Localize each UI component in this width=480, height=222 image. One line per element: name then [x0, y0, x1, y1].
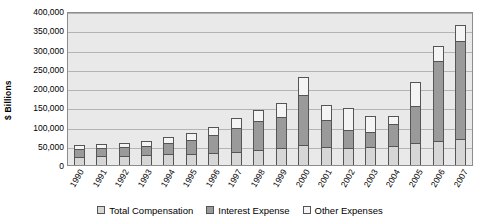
bar-segment-total-compensation[interactable] — [254, 151, 263, 165]
bar-segment-interest-expense[interactable] — [209, 136, 218, 154]
legend-item[interactable]: Other Expenses — [303, 205, 383, 216]
x-tick-slot: 2007 — [451, 167, 474, 201]
bar-segment-total-compensation[interactable] — [97, 157, 106, 165]
x-axis-tick: 1993 — [137, 168, 154, 189]
x-tick-slot: 1999 — [270, 167, 293, 201]
bar-slot — [158, 13, 180, 165]
bar-segment-other-expenses[interactable] — [232, 119, 241, 129]
bar-stack[interactable] — [455, 25, 466, 165]
bar-stack[interactable] — [208, 127, 219, 165]
bar-slot — [405, 13, 427, 165]
bar-segment-interest-expense[interactable] — [434, 62, 443, 142]
x-axis-tick: 2003 — [362, 168, 379, 189]
bar-stack[interactable] — [141, 141, 152, 165]
bar-segment-other-expenses[interactable] — [187, 134, 196, 141]
bar-stack[interactable] — [253, 110, 264, 165]
bar-slot — [449, 13, 471, 165]
bar-segment-total-compensation[interactable] — [434, 142, 443, 165]
x-tick-slot: 2001 — [315, 167, 338, 201]
bar-segment-total-compensation[interactable] — [411, 144, 420, 165]
x-axis-tick: 2006 — [430, 168, 447, 189]
bar-stack[interactable] — [163, 137, 174, 165]
bar-segment-interest-expense[interactable] — [232, 129, 241, 152]
bar-segment-interest-expense[interactable] — [142, 147, 151, 157]
x-axis-tick: 2001 — [317, 168, 334, 189]
x-axis-tick: 1999 — [272, 168, 289, 189]
bar-segment-total-compensation[interactable] — [322, 148, 331, 165]
y-axis-tick: 400,000 — [14, 8, 64, 17]
bar-segment-interest-expense[interactable] — [411, 107, 420, 144]
bar-stack[interactable] — [96, 144, 107, 165]
stacked-bar-chart: $ Billions 050,000100,000150,000200,0002… — [0, 0, 480, 222]
x-tick-slot: 1990 — [67, 167, 90, 201]
bar-slot — [180, 13, 202, 165]
bar-segment-total-compensation[interactable] — [456, 140, 465, 165]
bar-stack[interactable] — [343, 108, 354, 165]
bar-stack[interactable] — [433, 46, 444, 165]
bar-segment-interest-expense[interactable] — [254, 122, 263, 151]
bar-stack[interactable] — [298, 77, 309, 165]
bar-slot — [382, 13, 404, 165]
bar-segment-total-compensation[interactable] — [75, 158, 84, 165]
bar-stack[interactable] — [119, 143, 130, 165]
bar-segment-interest-expense[interactable] — [164, 144, 173, 155]
bar-slot — [360, 13, 382, 165]
bar-segment-total-compensation[interactable] — [187, 155, 196, 165]
bar-stack[interactable] — [388, 116, 399, 165]
bar-segment-total-compensation[interactable] — [299, 146, 308, 165]
bar-segment-total-compensation[interactable] — [120, 157, 129, 165]
chart-legend: Total CompensationInterest ExpenseOther … — [0, 201, 480, 219]
bar-slot — [427, 13, 449, 165]
bar-stack[interactable] — [365, 116, 376, 165]
legend-item[interactable]: Total Compensation — [97, 205, 193, 216]
bar-segment-total-compensation[interactable] — [209, 154, 218, 165]
bar-segment-interest-expense[interactable] — [389, 125, 398, 147]
bar-segment-other-expenses[interactable] — [389, 117, 398, 125]
bar-segment-other-expenses[interactable] — [277, 104, 286, 118]
bar-stack[interactable] — [410, 82, 421, 165]
bar-segment-other-expenses[interactable] — [344, 109, 353, 131]
bar-segment-total-compensation[interactable] — [277, 149, 286, 165]
bar-stack[interactable] — [276, 103, 287, 165]
bar-segment-total-compensation[interactable] — [142, 156, 151, 165]
bar-segment-total-compensation[interactable] — [389, 147, 398, 165]
bar-segment-total-compensation[interactable] — [344, 149, 353, 165]
bar-segment-other-expenses[interactable] — [209, 128, 218, 136]
bar-segment-total-compensation[interactable] — [366, 148, 375, 165]
bar-segment-interest-expense[interactable] — [456, 42, 465, 140]
bar-segment-other-expenses[interactable] — [299, 78, 308, 96]
bar-segment-other-expenses[interactable] — [322, 106, 331, 121]
x-axis-tick: 1994 — [159, 168, 176, 189]
x-axis-tick: 1992 — [114, 168, 131, 189]
x-tick-slot: 1998 — [248, 167, 271, 201]
legend-item[interactable]: Interest Expense — [206, 205, 289, 216]
bar-segment-total-compensation[interactable] — [164, 155, 173, 165]
plot-area — [67, 12, 473, 166]
bar-segment-total-compensation[interactable] — [232, 153, 241, 165]
bar-segment-interest-expense[interactable] — [277, 118, 286, 149]
bar-segment-other-expenses[interactable] — [456, 26, 465, 42]
bar-segment-other-expenses[interactable] — [254, 111, 263, 122]
legend-item-label: Interest Expense — [218, 205, 289, 216]
bar-stack[interactable] — [74, 145, 85, 165]
bar-segment-interest-expense[interactable] — [75, 150, 84, 158]
bar-slot — [270, 13, 292, 165]
bar-segment-interest-expense[interactable] — [299, 96, 308, 146]
x-axis-tick: 2000 — [294, 168, 311, 189]
bar-stack[interactable] — [321, 105, 332, 165]
bar-segment-interest-expense[interactable] — [344, 131, 353, 149]
bar-segment-other-expenses[interactable] — [411, 83, 420, 107]
bar-stack[interactable] — [186, 133, 197, 165]
bar-segment-other-expenses[interactable] — [434, 47, 443, 62]
bar-segment-interest-expense[interactable] — [120, 148, 129, 157]
bar-segment-interest-expense[interactable] — [366, 133, 375, 149]
bar-segment-interest-expense[interactable] — [187, 141, 196, 155]
bar-segment-interest-expense[interactable] — [322, 121, 331, 148]
bar-slot — [292, 13, 314, 165]
bar-segment-other-expenses[interactable] — [366, 117, 375, 133]
x-axis-tick: 1997 — [227, 168, 244, 189]
bar-segment-interest-expense[interactable] — [97, 149, 106, 157]
x-tick-slot: 1995 — [180, 167, 203, 201]
bar-stack[interactable] — [231, 118, 242, 165]
y-axis-tick: 300,000 — [14, 46, 64, 55]
